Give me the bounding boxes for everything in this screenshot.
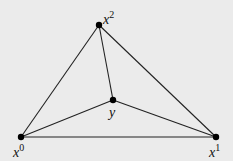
diagram-canvas [0, 0, 233, 161]
edge-x0-y [21, 100, 113, 137]
vertices [18, 22, 219, 140]
label-x1: x1 [209, 143, 220, 160]
label-x0: x0 [13, 143, 24, 160]
edge-x1-y [113, 100, 216, 137]
label-x2: x2 [103, 10, 114, 27]
edge-x1-x2 [99, 25, 216, 137]
vertex-x1-dot [213, 134, 219, 140]
edge-x0-x2 [21, 25, 99, 137]
vertex-x2-dot [96, 22, 102, 28]
vertex-y-dot [110, 97, 116, 103]
edges [21, 25, 216, 137]
vertex-x0-dot [18, 134, 24, 140]
label-y: y [109, 106, 115, 120]
